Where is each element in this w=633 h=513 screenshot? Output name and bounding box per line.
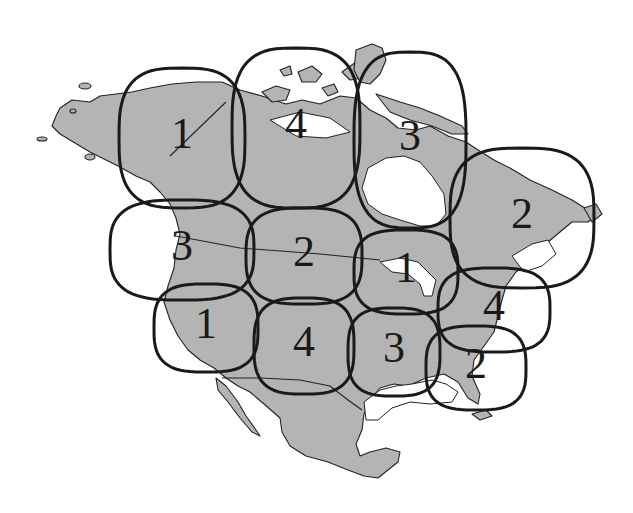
region-label-california-southwest: 1 — [195, 299, 217, 348]
region-label-labrador-maritimes: 2 — [511, 189, 533, 238]
region-label-pacific-northwest: 3 — [171, 221, 193, 270]
north-america-region-map: 143232141432 — [0, 0, 633, 513]
arctic-island — [322, 84, 338, 96]
caribbean-island — [472, 410, 492, 420]
region-label-south-central: 3 — [383, 323, 405, 372]
region-label-alaska: 1 — [171, 109, 193, 158]
arctic-island — [280, 66, 292, 76]
region-label-great-lakes: 1 — [395, 243, 417, 292]
aleutian-island — [85, 154, 95, 160]
region-label-prairies-plains: 2 — [293, 227, 315, 276]
region-label-southeast-florida: 2 — [465, 339, 487, 388]
region-label-texas-southwest: 4 — [293, 317, 315, 366]
region-label-nunavut-west: 4 — [285, 99, 307, 148]
mainland — [52, 82, 598, 478]
region-label-northeast: 4 — [483, 281, 505, 330]
region-label-arctic-east-quebec: 3 — [399, 111, 421, 160]
aleutian-island — [37, 137, 47, 141]
aleutian-island — [70, 109, 76, 113]
arctic-island — [298, 66, 322, 82]
aleutian-island — [79, 83, 91, 89]
